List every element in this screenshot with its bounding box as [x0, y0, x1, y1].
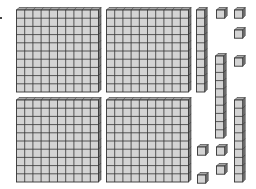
unit-cube-6	[216, 144, 228, 156]
unit-cube-7	[216, 163, 228, 175]
hundred-flat-3	[16, 97, 102, 183]
unit-cube-1	[216, 7, 228, 19]
unit-cube-5	[197, 144, 209, 156]
ten-rod-2	[215, 53, 227, 139]
unit-cube-3	[234, 27, 246, 39]
hundred-flat-4	[106, 97, 192, 183]
stray-mark	[0, 17, 2, 19]
ten-rod-1	[196, 7, 208, 93]
ten-rod-3	[234, 97, 246, 183]
unit-cube-8	[197, 172, 209, 184]
hundred-flat-1	[16, 7, 102, 93]
hundred-flat-2	[106, 7, 192, 93]
unit-cube-4	[234, 55, 246, 67]
unit-cube-2	[234, 7, 246, 19]
